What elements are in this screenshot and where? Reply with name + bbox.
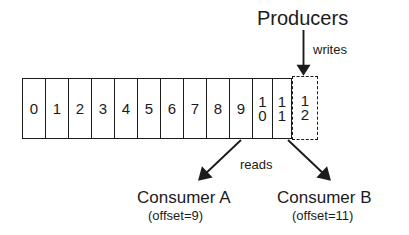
consumer-a-offset: (offset=9) [148, 208, 203, 223]
log-cell-label: 6 [168, 102, 176, 116]
log-cell-label: 7 [191, 102, 199, 116]
log-cell-9[interactable]: 9 [229, 78, 252, 139]
log-cell-label: 5 [145, 102, 153, 116]
log-cell-label: 1 1 [278, 95, 286, 123]
producers-label: Producers [257, 7, 348, 30]
consumer-b-name: Consumer B [277, 188, 371, 208]
log-cell-label: 1 [53, 102, 61, 116]
partition-log-strip: 0 1 2 3 4 5 6 7 8 9 1 0 [22, 78, 292, 139]
log-cell-label: 3 [99, 102, 107, 116]
log-cell-5[interactable]: 5 [137, 78, 160, 139]
log-cell-10[interactable]: 1 0 [252, 78, 272, 139]
log-cell-3[interactable]: 3 [91, 78, 114, 139]
consumer-a-read-arrow [203, 140, 241, 176]
log-cell-label: 1 0 [258, 95, 266, 123]
log-cell-label: 9 [237, 102, 245, 116]
log-cell-0[interactable]: 0 [22, 78, 45, 139]
partition-log-diagram: Producers writes 0 1 2 3 4 5 6 7 8 [0, 0, 409, 235]
reads-label: reads [240, 157, 273, 172]
log-cell-label: 1 2 [301, 94, 309, 122]
log-cell-4[interactable]: 4 [114, 78, 137, 139]
consumer-b-offset: (offset=11) [292, 208, 353, 223]
consumer-b-read-arrow [288, 140, 326, 176]
log-cell-1[interactable]: 1 [45, 78, 68, 139]
log-cell-11[interactable]: 1 1 [272, 78, 292, 139]
log-cell-6[interactable]: 6 [160, 78, 183, 139]
log-cell-label: 0 [30, 102, 38, 116]
writes-label: writes [313, 42, 347, 57]
log-cell-label: 4 [122, 102, 130, 116]
log-cell-label: 2 [76, 102, 84, 116]
log-cell-label: 8 [214, 102, 222, 116]
consumer-a-name: Consumer A [137, 188, 231, 208]
log-cell-8[interactable]: 8 [206, 78, 229, 139]
log-cell-7[interactable]: 7 [183, 78, 206, 139]
log-cell-12-pending[interactable]: 1 2 [292, 76, 318, 140]
log-cell-2[interactable]: 2 [68, 78, 91, 139]
